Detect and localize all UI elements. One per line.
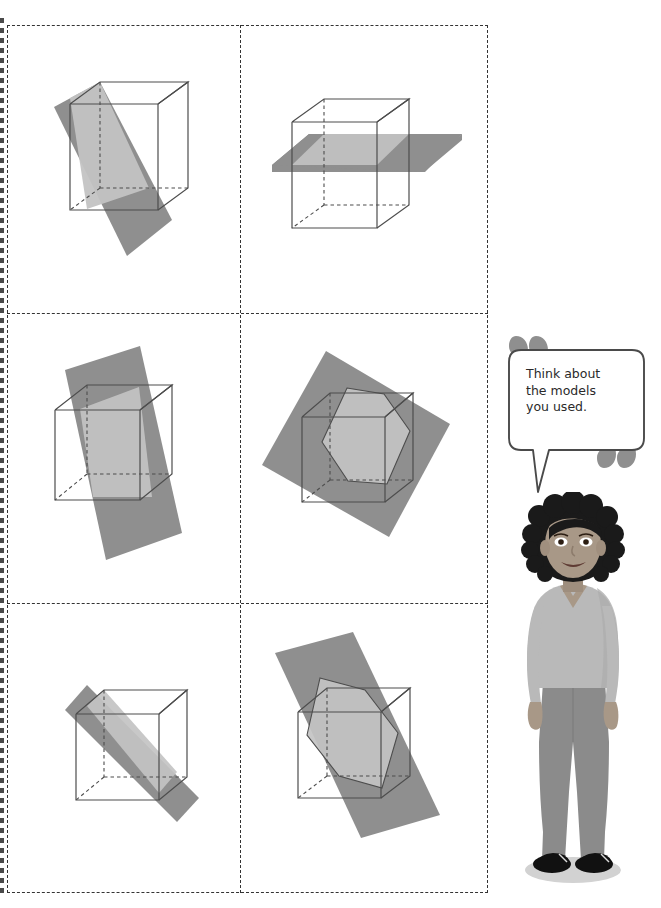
ear-right [596, 540, 606, 556]
page-edge-ticks [0, 18, 5, 894]
hand-right [604, 702, 619, 730]
pupil-right [583, 539, 589, 545]
cell-bottom-left[interactable] [29, 650, 244, 840]
worksheet-grid [7, 25, 488, 893]
cube-diagram-4 [250, 347, 485, 582]
plane-light-6-hexagon [307, 678, 398, 788]
student-character-svg [497, 492, 657, 892]
cube-diagram-3 [27, 337, 237, 582]
pupil-left [558, 539, 564, 545]
cell-top-left[interactable] [37, 60, 237, 290]
speech-bubble-text: Think about the models you used. [526, 366, 622, 416]
hand-left [528, 702, 543, 730]
ear-left [540, 540, 550, 556]
speech-bubble: Think about the models you used. [496, 330, 661, 500]
page-edge-ticks-svg [0, 18, 5, 894]
cube-diagram-2 [272, 80, 477, 270]
cube-diagram-1 [37, 60, 237, 290]
cube-diagram-5 [29, 650, 244, 840]
cube-diagram-6 [255, 630, 490, 875]
grid-divider-row-2 [7, 603, 488, 604]
cell-bottom-right[interactable] [255, 630, 490, 875]
grid-divider-row-1 [7, 313, 488, 314]
worksheet-page: Think about the models you used. [0, 0, 661, 908]
cell-middle-left[interactable] [27, 337, 237, 582]
cell-top-right[interactable] [272, 80, 477, 270]
pants [539, 682, 609, 860]
student-character [497, 492, 657, 892]
cell-middle-right[interactable] [250, 347, 485, 582]
